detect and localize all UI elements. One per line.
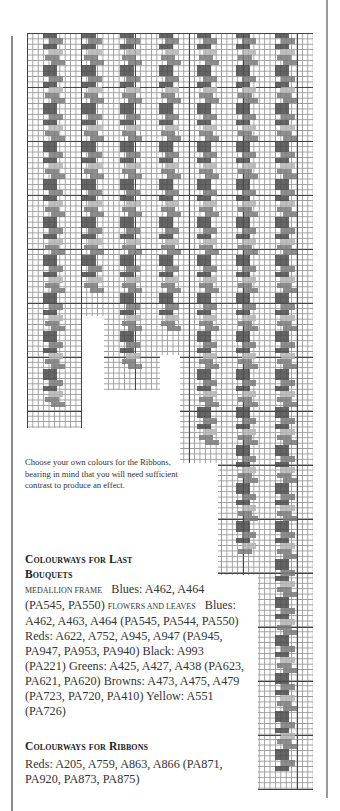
ribbon-stitch <box>236 331 250 336</box>
ribbon-stitch <box>275 749 289 754</box>
ribbon-stitch <box>275 766 289 771</box>
heading-line-2: Bouquets <box>25 568 73 580</box>
ribbon-stitch <box>275 217 289 222</box>
flowers-leaves-label: FLOWERS AND LEAVES <box>108 602 196 611</box>
ribbon-stitch <box>43 369 57 374</box>
ribbon-stitch <box>236 103 250 108</box>
right-margin-rule <box>326 0 328 798</box>
ribbon-stitch <box>275 103 289 108</box>
ribbon-stitch <box>90 288 104 293</box>
ribbon-stitch <box>236 141 250 146</box>
ribbon-stitch <box>120 331 134 336</box>
heading-line-1: Colourways for Last <box>25 553 133 565</box>
ribbon-stitch <box>275 293 289 298</box>
ribbon-stitch <box>43 103 57 108</box>
ribbon-stitch <box>275 407 289 412</box>
colourways-ribbons-heading: Colourways for Ribbons <box>25 740 225 752</box>
ribbon-stitch <box>197 369 211 374</box>
ribbon-stitch <box>120 141 134 146</box>
ribbon-stitch <box>275 65 289 70</box>
ribbon-stitch <box>197 331 211 336</box>
ribbon-stitch <box>275 673 289 678</box>
ribbon-stitch <box>275 597 289 602</box>
ribbon-stitch <box>197 217 211 222</box>
ribbon-stitch <box>197 103 211 108</box>
ribbon-colour-note: Choose your own colours for the Ribbons,… <box>25 457 195 492</box>
ribbon-stitch <box>236 521 250 526</box>
ribbon-stitch <box>159 65 173 70</box>
ribbon-stitch <box>128 364 142 369</box>
ribbon-stitch <box>236 483 250 488</box>
ribbon-stitch <box>51 402 65 407</box>
ribbon-stitch <box>236 445 250 450</box>
ribbon-stitch <box>238 549 252 554</box>
ribbon-stitch <box>159 255 173 260</box>
ribbon-stitch <box>43 331 57 336</box>
ribbon-stitch <box>120 103 134 108</box>
flowers-leaves-colours: Blues: A462, A463, A464 (PA545, PA544, P… <box>25 598 244 718</box>
left-margin-rule <box>11 36 13 811</box>
ribbon-stitch <box>197 65 211 70</box>
ribbon-stitch <box>82 141 96 146</box>
ribbon-stitch <box>275 559 289 564</box>
ribbon-stitch <box>236 217 250 222</box>
ribbon-stitch <box>236 179 250 184</box>
ribbon-stitch <box>159 293 173 298</box>
ribbon-stitch <box>236 65 250 70</box>
ribbon-stitch <box>159 141 173 146</box>
ribbon-stitch <box>159 217 173 222</box>
ribbon-stitch <box>120 255 134 260</box>
bouquet-colourways-body: MEDALLION FRAME Blues: A462, A464 (PA545… <box>25 582 245 719</box>
ribbon-stitch <box>275 179 289 184</box>
ribbon-stitch <box>159 179 173 184</box>
ribbon-stitch <box>197 407 211 412</box>
ribbon-stitch <box>197 255 211 260</box>
ribbon-stitch <box>82 103 96 108</box>
ribbon-stitch <box>275 255 289 260</box>
ribbon-stitch <box>120 179 134 184</box>
ribbon-stitch <box>43 65 57 70</box>
ribbon-stitch <box>236 369 250 374</box>
ribbon-stitch <box>205 440 219 445</box>
ribbon-stitch <box>43 217 57 222</box>
ribbon-stitch <box>236 255 250 260</box>
ribbon-stitch <box>197 179 211 184</box>
ribbon-stitch <box>236 293 250 298</box>
ribbon-stitch <box>197 141 211 146</box>
ribbon-stitch <box>197 293 211 298</box>
ribbon-stitch <box>275 141 289 146</box>
ribbon-stitch <box>275 521 289 526</box>
ribbon-stitch <box>43 255 57 260</box>
ribbon-stitch <box>120 217 134 222</box>
ribbon-stitch <box>275 711 289 716</box>
ribbon-colourways-body: Reds: A205, A759, A863, A866 (PA871, PA9… <box>25 757 225 787</box>
ribbon-stitch <box>43 141 57 146</box>
ribbon-stitch <box>275 369 289 374</box>
ribbon-stitch <box>159 103 173 108</box>
ribbon-stitch <box>275 445 289 450</box>
medallion-frame-label: MEDALLION FRAME <box>25 586 102 595</box>
ribbon-stitch <box>275 331 289 336</box>
colourways-bouquets-heading: Colourways for Last Bouquets <box>25 552 225 581</box>
ribbon-stitch <box>275 483 289 488</box>
ribbon-stitch <box>120 65 134 70</box>
ribbon-stitch <box>43 179 57 184</box>
ribbon-stitch <box>120 293 134 298</box>
ribbon-stitch <box>82 217 96 222</box>
ribbon-stitch <box>167 326 181 331</box>
ribbon-stitch <box>275 635 289 640</box>
ribbon-stitch <box>82 65 96 70</box>
ribbon-stitch <box>43 293 57 298</box>
ribbon-stitch <box>82 179 96 184</box>
ribbon-stitch <box>236 407 250 412</box>
ribbon-stitch <box>82 255 96 260</box>
